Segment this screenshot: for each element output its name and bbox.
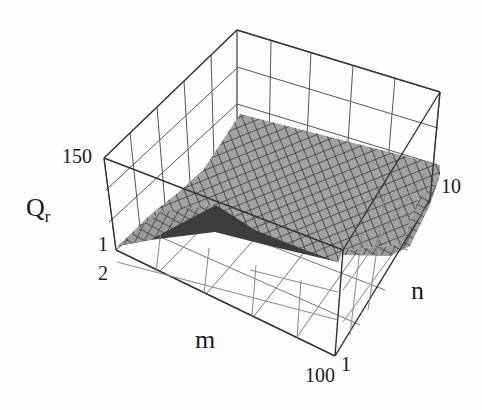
x-tick-2: 2 bbox=[98, 262, 108, 285]
z-tick-150: 150 bbox=[62, 145, 92, 168]
plot-canvas bbox=[0, 0, 482, 410]
x-axis-label: m bbox=[195, 325, 215, 355]
x-tick-100: 100 bbox=[305, 364, 335, 387]
z-axis-symbol: Q bbox=[26, 193, 45, 222]
y-axis-label: n bbox=[411, 276, 424, 306]
z-axis-label: Qr bbox=[26, 193, 50, 223]
y-tick-10: 10 bbox=[441, 175, 461, 198]
y-tick-1: 1 bbox=[341, 353, 351, 376]
z-tick-1: 1 bbox=[98, 233, 108, 256]
z-axis-subscript: r bbox=[45, 207, 51, 226]
surface-plot: 150 Qr 1 2 m 100 1 10 n bbox=[0, 0, 482, 410]
